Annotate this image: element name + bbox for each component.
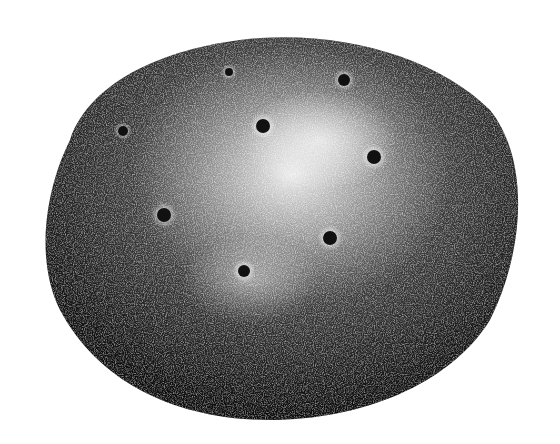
eye-icon	[151, 202, 177, 228]
potato-body	[0, 0, 560, 444]
eye-icon	[333, 69, 355, 91]
eye-icon	[114, 122, 132, 140]
eye-icon	[221, 64, 237, 80]
potato-illustration	[0, 0, 560, 444]
eye-icon	[232, 259, 256, 283]
eye-icon	[317, 225, 343, 251]
eye-icon	[361, 144, 387, 170]
eye-icon	[250, 113, 276, 139]
